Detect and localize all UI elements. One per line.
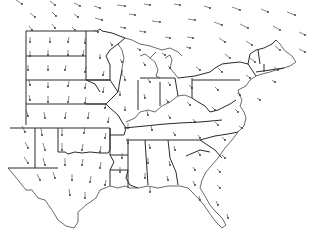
wind-arrow-icon [67, 50, 69, 56]
wind-arrow-icon [218, 68, 223, 73]
wind-arrow-icon [193, 181, 196, 186]
wind-arrow-icon [52, 12, 57, 17]
michigan-coast [140, 48, 182, 78]
wind-vectors [16, 0, 306, 219]
wind-arrow-icon [219, 38, 226, 43]
wind-arrow-icon [147, 158, 149, 164]
wind-arrow-icon [148, 79, 151, 83]
wind-arrow-icon [64, 65, 66, 71]
ark-la-border [110, 135, 138, 188]
wind-arrow-icon [67, 96, 69, 103]
wind-arrow-icon [222, 155, 226, 159]
wind-arrow-icon [94, 6, 101, 9]
wind-arrow-icon [227, 214, 229, 219]
wind-arrow-icon [99, 162, 101, 169]
wind-arrow-icon [82, 50, 84, 56]
wind-arrow-icon [147, 111, 149, 116]
wind-arrow-icon [299, 49, 306, 53]
wind-arrow-icon [50, 1, 56, 6]
wind-arrow-icon [214, 22, 223, 26]
wind-arrow-icon [167, 176, 169, 181]
wind-arrow-icon [222, 137, 226, 141]
wind-arrow-icon [72, 27, 76, 31]
wind-arrow-icon [104, 180, 106, 186]
wind-arrow-icon [43, 158, 46, 166]
wind-arrow-icon [27, 65, 29, 71]
wind-arrow-icon [52, 24, 56, 29]
wind-arrow-icon [99, 54, 101, 59]
wind-arrow-icon [217, 169, 221, 173]
wind-arrow-icon [119, 91, 121, 96]
wind-arrow-icon [232, 7, 241, 11]
wind-arrow-icon [81, 159, 83, 166]
wind-arrow-icon [186, 47, 191, 49]
wind-arrow-icon [173, 132, 176, 136]
wind-arrow-icon [246, 41, 253, 46]
wind-arrow-icon [53, 172, 56, 179]
wind-arrow-icon [235, 109, 239, 113]
wind-arrow-icon [187, 102, 191, 106]
wind-arrow-icon [29, 26, 33, 31]
wind-arrow-icon [273, 26, 281, 31]
wind-arrow-icon [84, 192, 86, 199]
wind-arrow-icon [168, 115, 171, 119]
wind-arrow-icon [49, 37, 51, 43]
wind-arrow-icon [149, 144, 151, 149]
wind-arrow-icon [166, 99, 169, 103]
wind-arrow-icon [47, 82, 49, 88]
wind-arrow-icon [61, 143, 63, 151]
wind-arrow-icon [117, 5, 126, 7]
wind-arrow-icon [67, 81, 69, 87]
wind-arrow-icon [102, 87, 104, 93]
wind-arrow-icon [174, 146, 176, 151]
great-lakes-wisconsin [118, 38, 162, 76]
wind-arrow-icon [64, 112, 66, 119]
wind-arrow-icon [95, 18, 103, 21]
wind-arrow-icon [81, 144, 83, 151]
wind-arrow-icon [137, 48, 141, 51]
wind-arrow-icon [44, 112, 46, 119]
wind-arrow-icon [61, 128, 63, 136]
wind-arrow-icon [110, 42, 113, 46]
wind-arrow-icon [196, 67, 201, 71]
wind-arrow-icon [89, 176, 91, 183]
wind-arrow-icon [129, 14, 136, 16]
wind-arrow-icon [29, 95, 31, 101]
wind-arrow-icon [107, 117, 109, 123]
il-in-oh-border [118, 70, 178, 110]
wind-arrow-icon [215, 122, 219, 126]
wind-arrow-icon [204, 6, 211, 9]
wind-arrow-icon [64, 158, 66, 166]
wind-arrow-icon [43, 143, 46, 151]
wind-arrow-icon [74, 3, 81, 7]
wv-va-border [192, 98, 236, 112]
wind-arrow-icon [29, 51, 31, 57]
wind-arrow-icon [121, 153, 123, 159]
wind-arrow-icon [187, 37, 194, 39]
wind-arrow-icon [299, 32, 306, 36]
wind-arrow-icon [47, 96, 49, 103]
wind-arrow-icon [212, 107, 216, 111]
wind-arrow-icon [261, 9, 269, 13]
wind-arrow-icon [246, 75, 251, 79]
missouri-border [106, 104, 126, 135]
wind-arrow-icon [29, 37, 31, 43]
wind-arrow-icon [30, 13, 36, 18]
wind-arrow-icon [25, 142, 29, 149]
southeast-coast [138, 132, 238, 228]
wind-arrow-icon [198, 152, 201, 156]
wind-arrow-icon [152, 21, 161, 23]
northern-border [26, 29, 102, 31]
wind-arrow-icon [144, 4, 151, 6]
wind-arrow-icon [144, 173, 146, 179]
wind-arrow-icon [165, 37, 171, 39]
wind-arrow-icon [87, 112, 89, 119]
wind-arrow-icon [69, 189, 71, 196]
ms-al-ga-border [126, 140, 200, 188]
wind-arrow-icon [22, 126, 26, 133]
wind-arrow-icon [198, 135, 201, 139]
wind-arrow-icon [99, 146, 101, 153]
wind-arrow-icon [151, 126, 153, 131]
wind-arrow-icon [84, 83, 86, 89]
tx-west-border [8, 165, 58, 168]
